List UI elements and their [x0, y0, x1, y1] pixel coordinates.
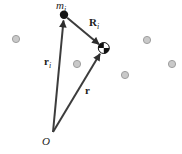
origin-label: O [42, 136, 50, 147]
mass-label: mi [56, 0, 66, 14]
origin-label-base: O [42, 135, 50, 147]
particle-dot [73, 60, 80, 67]
center-of-mass-diagram: mi Ri ri r O [0, 0, 182, 154]
particle-dot [168, 60, 175, 67]
center-of-mass-icon [98, 43, 109, 54]
vector-r-label: r [85, 85, 90, 96]
vector-Ri-label-sub: i [97, 22, 99, 31]
vector-Ri-label-base: R [89, 16, 97, 28]
mass-label-sub: i [64, 5, 66, 14]
vector-ri-label-sub: i [49, 61, 51, 70]
vector-ri-label: ri [44, 56, 51, 70]
particle-dot [121, 71, 128, 78]
vector-r-label-base: r [85, 84, 90, 96]
particle-dots [12, 35, 175, 78]
mass-label-base: m [56, 0, 64, 11]
vector-Ri-label: Ri [89, 17, 99, 31]
particle-dot [143, 36, 150, 43]
particle-dot [12, 35, 19, 42]
com-quadrant-bottom-right [104, 48, 110, 54]
